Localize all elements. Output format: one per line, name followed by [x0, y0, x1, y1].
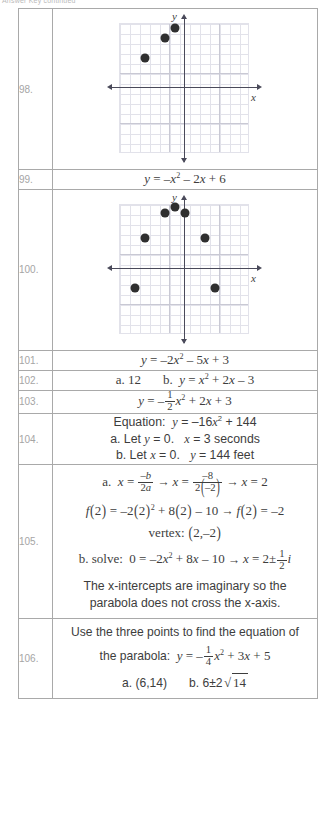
table-row: 99. y = –x2 – 2x + 6 [19, 170, 318, 190]
data-point-icon [170, 23, 179, 32]
row-content-106: Use the three points to find the equatio… [53, 619, 318, 699]
fraction-one-half: 12 [165, 390, 174, 413]
data-point-icon [210, 284, 219, 293]
axis-arrow-down-icon [181, 339, 187, 344]
answer-106-part-a: a. (6,14) [122, 676, 167, 690]
equation-99: y = –x2 – 2x + 6 [53, 170, 317, 189]
data-point-icon [170, 203, 179, 212]
answer-106-part-b-prefix: b. 6±2 [189, 676, 223, 690]
coordinate-graph-100: y x [105, 193, 265, 348]
part-a-condition: = 0. [153, 432, 174, 446]
table-row: 104. Equation: y = –16x2 + 144 a. Let y … [19, 414, 318, 465]
data-point-icon [180, 209, 189, 218]
table-row: 102. a. 12b. y = x2 + 2x – 3 [19, 370, 318, 390]
data-point-icon [160, 209, 169, 218]
table-row: 98. y x [19, 9, 318, 170]
header-text: Answer Key continued [2, 0, 335, 4]
answer-102-part-b-prefix: b. [163, 372, 173, 387]
equation-101: y = –2x2 – 5x + 3 [53, 351, 317, 370]
row-number-102: 102. [19, 370, 53, 390]
row-content-101: y = –2x2 – 5x + 3 [53, 350, 318, 370]
data-point-icon [160, 33, 169, 42]
work-105-line-a: a. x = –b2a→x = –82(–2)→x = 2 [56, 472, 314, 495]
part-a-result: = 3 seconds [193, 432, 260, 446]
row-number-104: 104. [19, 414, 53, 465]
work-105-vertex: vertex: (2,–2) [56, 524, 314, 543]
coordinate-graph-98: y x [105, 12, 265, 167]
axis-arrow-up-icon [181, 14, 187, 19]
answer-102-part-a: a. 12 [116, 372, 141, 387]
y-axis [184, 17, 185, 162]
row-number-99: 99. [19, 170, 53, 190]
table-row: 101. y = –2x2 – 5x + 3 [19, 350, 318, 370]
fraction-neg-b-over-2a: –b2a [138, 471, 153, 494]
work-105-line-f2: f(2) = –2(2)2 + 8(2) – 10→f(2) = –2 [56, 502, 314, 521]
row-content-98: y x [53, 9, 318, 170]
equation-103: y = –12x2 + 2x + 3 [53, 391, 317, 414]
answer-key-page: Answer Key continued 98. y x [0, 0, 335, 823]
data-point-icon [200, 234, 209, 243]
y-axis-label: y [172, 10, 177, 22]
part-a-prefix: a. Let [110, 432, 141, 446]
axis-arrow-left-icon [107, 265, 112, 271]
square-root-icon: √14 [223, 673, 248, 693]
answer-104-part-b: b. Let x = 0. y = 144 feet [53, 447, 317, 464]
data-point-icon [140, 234, 149, 243]
row-content-104: Equation: y = –16x2 + 144 a. Let y = 0. … [53, 414, 318, 465]
fraction-one-half: 12 [277, 549, 286, 572]
axis-arrow-up-icon [181, 195, 187, 200]
work-105-line-b: b. solve: 0 = –2x2 + 8x – 10→x = 2±12i [56, 549, 314, 572]
row-content-102: a. 12b. y = x2 + 2x – 3 [53, 370, 318, 390]
row-content-103: y = –12x2 + 2x + 3 [53, 390, 318, 414]
row-number-106: 106. [19, 619, 53, 699]
fraction-one-fourth: 14 [204, 645, 213, 668]
prompt-106-line2: the parabola: y = –14x2 + 3x + 5 [55, 646, 315, 669]
table-row: 100. y x [19, 189, 318, 350]
part-b-result: = 144 feet [199, 448, 254, 462]
table-row: 106. Use the three points to find the eq… [19, 619, 318, 699]
row-number-105: 105. [19, 465, 53, 619]
y-axis [184, 198, 185, 343]
answers-table: 98. y x 99. [18, 8, 318, 699]
row-number-103: 103. [19, 390, 53, 414]
x-axis-label: x [251, 272, 256, 284]
part-b-prefix: b. solve: [79, 552, 123, 567]
data-point-icon [130, 284, 139, 293]
fraction-neg-8-over-2neg2: –82(–2) [193, 471, 222, 494]
vertex-label: vertex: [149, 525, 185, 540]
axis-arrow-down-icon [181, 158, 187, 163]
part-a-prefix: a. [102, 474, 111, 489]
note-105-line1: The x-intercepts are imaginary so the [56, 578, 314, 595]
row-number-98: 98. [19, 9, 53, 170]
row-number-100: 100. [19, 189, 53, 350]
answer-106-parts: a. (6,14)b. 6±2√14 [55, 673, 315, 693]
row-number-101: 101. [19, 350, 53, 370]
axis-arrow-right-icon [257, 265, 262, 271]
table-row: 105. a. x = –b2a→x = –82(–2)→x = 2 f(2) … [19, 465, 318, 619]
data-point-icon [140, 53, 149, 62]
part-b-condition: = 0. [159, 448, 180, 462]
page-header: Answer Key continued [0, 0, 335, 7]
parabola-label: the parabola: [100, 649, 171, 663]
prompt-106-line1: Use the three points to find the equatio… [55, 624, 315, 640]
answer-104-part-a: a. Let y = 0. x = 3 seconds [53, 431, 317, 448]
note-105-line2: parabola does not cross the x-axis. [56, 595, 314, 612]
axis-arrow-left-icon [107, 84, 112, 90]
answer-102: a. 12b. y = x2 + 2x – 3 [53, 371, 317, 390]
equation-104-label: Equation: [113, 415, 165, 429]
axis-arrow-right-icon [257, 84, 262, 90]
y-axis-label: y [172, 191, 177, 203]
equation-104-line: Equation: y = –16x2 + 144 [53, 414, 317, 431]
part-b-prefix: b. Let [116, 448, 147, 462]
row-content-99: y = –x2 – 2x + 6 [53, 170, 318, 190]
row-content-105: a. x = –b2a→x = –82(–2)→x = 2 f(2) = –2(… [53, 465, 318, 619]
table-row: 103. y = –12x2 + 2x + 3 [19, 390, 318, 414]
row-content-100: y x [53, 189, 318, 350]
x-axis-label: x [251, 91, 256, 103]
